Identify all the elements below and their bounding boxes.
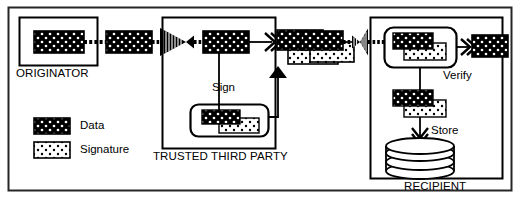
sign-to-signature-arrow <box>268 66 287 117</box>
legend-swatch-signature <box>34 142 70 158</box>
transit-data-block-1 <box>106 31 152 53</box>
ttp-input-data-block <box>203 31 249 53</box>
sign-label: Sign <box>212 82 235 94</box>
diagram-canvas: ORIGINATOR TRUSTED THIRD PARTY RECIPIENT… <box>0 0 520 207</box>
originator-data-block <box>34 31 84 53</box>
transit-data-block-2 <box>301 31 343 50</box>
verify-input-data-block <box>393 33 433 49</box>
verify-output-data-block <box>472 35 508 57</box>
trusted-third-party-label: TRUSTED THIRD PARTY <box>153 151 288 163</box>
store-data-block <box>393 90 433 106</box>
store-label: Store <box>431 125 459 137</box>
legend-label-signature: Signature <box>80 144 129 156</box>
sign-box-data-block <box>202 110 240 124</box>
originator-label: ORIGINATOR <box>16 68 89 80</box>
recipient-datastore-icon <box>386 138 454 179</box>
channel-originator-to-ttp <box>152 28 203 56</box>
diagram-svg <box>0 0 520 207</box>
legend-label-data: Data <box>80 120 104 132</box>
recipient-label: RECIPIENT <box>404 181 466 193</box>
legend-swatch-data <box>34 118 70 134</box>
verify-label: Verify <box>443 70 472 82</box>
